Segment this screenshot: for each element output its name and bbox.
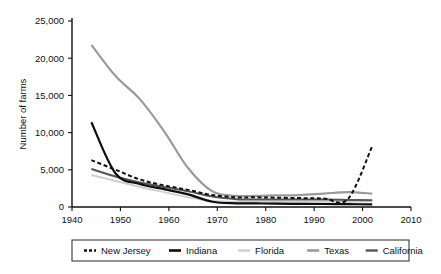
x-tick-label: 1960 bbox=[158, 214, 179, 225]
y-tick-label: 10,000 bbox=[35, 127, 64, 138]
legend-label-new-jersey[interactable]: New Jersey bbox=[101, 245, 151, 256]
chart-figure: 05,00010,00015,00020,00025,000 194019501… bbox=[0, 0, 441, 274]
x-tick-label: 2010 bbox=[400, 214, 421, 225]
legend-label-indiana[interactable]: Indiana bbox=[186, 245, 218, 256]
legend-label-florida[interactable]: Florida bbox=[255, 245, 285, 256]
y-tick-label: 15,000 bbox=[35, 90, 64, 101]
x-axis-tick-labels: 19401950196019701980199020002010 bbox=[61, 214, 421, 225]
series-line-texas bbox=[91, 45, 372, 196]
x-tick-label: 1940 bbox=[61, 214, 82, 225]
y-tick-label: 20,000 bbox=[35, 53, 64, 64]
line-chart-canvas: 05,00010,00015,00020,00025,000 194019501… bbox=[0, 0, 441, 274]
legend-label-texas[interactable]: Texas bbox=[324, 245, 349, 256]
series-line-indiana bbox=[91, 122, 372, 204]
chart-series-group bbox=[91, 45, 372, 205]
y-axis-title: Number of farms bbox=[17, 78, 28, 149]
y-axis-tick-labels: 05,00010,00015,00020,00025,000 bbox=[35, 15, 64, 212]
y-tick-label: 0 bbox=[59, 201, 64, 212]
legend-label-california[interactable]: California bbox=[383, 245, 424, 256]
x-tick-label: 1980 bbox=[255, 214, 276, 225]
x-tick-label: 1970 bbox=[207, 214, 228, 225]
y-tick-label: 5,000 bbox=[40, 164, 64, 175]
x-tick-label: 1990 bbox=[304, 214, 325, 225]
x-tick-label: 1950 bbox=[110, 214, 131, 225]
y-tick-label: 25,000 bbox=[35, 15, 64, 26]
x-tick-label: 2000 bbox=[352, 214, 373, 225]
